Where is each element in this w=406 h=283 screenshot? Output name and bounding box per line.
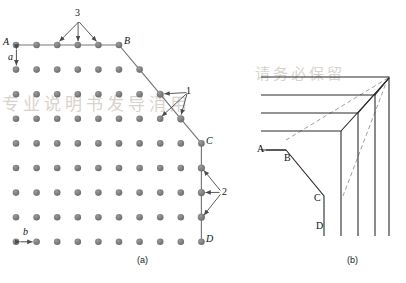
label-point-c: C <box>206 135 213 146</box>
crystal-boundary <box>16 45 201 242</box>
figure-root: 专业说明书发导消用 请务必保留 <box>0 0 406 283</box>
label-site-3: 3 <box>75 7 80 18</box>
label-b-b: B <box>284 152 291 163</box>
diagonal-lower <box>343 78 388 196</box>
label-point-b: B <box>124 35 130 46</box>
annotation-2-arrows <box>204 170 221 215</box>
annotation-1-arrows <box>162 93 187 117</box>
label-site-2: 2 <box>222 186 227 197</box>
contour-outer-1 <box>261 77 389 236</box>
label-site-1: 1 <box>186 85 191 96</box>
caption-panel-a: (a) <box>137 255 148 265</box>
label-b-c: C <box>314 192 321 203</box>
panel-b-drawing <box>248 0 406 283</box>
label-lattice-constant-b: b <box>23 226 28 237</box>
annotation-3-arrows <box>59 22 96 41</box>
lattice-atoms <box>13 42 205 245</box>
caption-panel-b: (b) <box>347 255 358 265</box>
contour-outer-2 <box>261 78 389 95</box>
label-b-a: A <box>257 143 264 154</box>
label-lattice-constant-a: a <box>8 51 13 62</box>
label-b-d: D <box>316 220 323 231</box>
panel-b: A B C D (b) <box>248 0 406 283</box>
label-point-d: D <box>206 233 213 244</box>
contour-outer-4 <box>261 78 389 131</box>
panel-a: A B C D a b 3 1 2 (a) <box>0 0 250 283</box>
growth-front-contours <box>261 77 389 236</box>
label-point-a: A <box>3 36 9 47</box>
